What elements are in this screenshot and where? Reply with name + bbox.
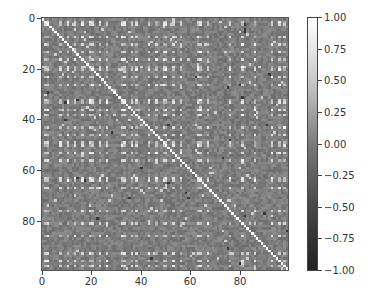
x-tick-0 [42,271,43,275]
colorbar-tick-label: 0.50 [324,75,346,86]
colorbar-tick [318,207,322,208]
colorbar-tick [318,17,322,18]
colorbar-tick [318,112,322,113]
x-tick-40 [141,271,142,275]
y-tick-label: 20 [22,64,35,75]
colorbar-tick [318,238,322,239]
x-tick-label: 40 [135,276,148,287]
y-tick-label: 0 [29,13,35,24]
y-tick-80 [37,221,41,222]
colorbar-tick-label: −0.75 [324,233,355,244]
colorbar-tick-label: −0.25 [324,170,355,181]
x-tick-60 [190,271,191,275]
colorbar [307,17,318,271]
y-tick-40 [37,119,41,120]
colorbar-tick [318,49,322,50]
y-tick-20 [37,69,41,70]
colorbar-tick [318,144,322,145]
y-tick-60 [37,170,41,171]
colorbar-tick-label: 1.00 [324,12,346,23]
colorbar-tick-label: 0.25 [324,107,346,118]
colorbar-tick-label: 0.00 [324,139,346,150]
correlation-heatmap [41,17,289,271]
x-tick-80 [240,271,241,275]
x-tick-label: 20 [85,276,98,287]
x-tick-20 [91,271,92,275]
y-tick-label: 60 [22,165,35,176]
colorbar-tick-label: −1.00 [324,265,355,276]
y-tick-label: 40 [22,114,35,125]
x-tick-label: 80 [234,276,247,287]
y-tick-label: 80 [22,216,35,227]
colorbar-tick-label: 0.75 [324,44,346,55]
y-tick-0 [37,18,41,19]
colorbar-tick-label: −0.50 [324,202,355,213]
colorbar-tick [318,270,322,271]
x-tick-label: 60 [184,276,197,287]
colorbar-tick [318,175,322,176]
colorbar-tick [318,80,322,81]
heatmap-canvas [42,18,288,270]
x-tick-label: 0 [39,276,45,287]
